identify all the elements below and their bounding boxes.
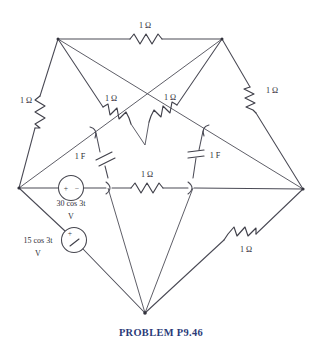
node-top-left xyxy=(57,38,60,41)
top-resistor-label: 1 Ω xyxy=(139,21,151,30)
wire-midright-upper xyxy=(177,39,222,105)
node-right xyxy=(301,187,304,190)
node-top-right xyxy=(221,38,224,41)
circuit-schematic-svg: 1 Ω 1 Ω 1 Ω 1 Ω + xyxy=(0,0,322,349)
wire-mid-rail-right xyxy=(194,188,303,189)
branch-left-resistor: 1 Ω xyxy=(19,39,58,188)
top-resistor-icon xyxy=(130,34,162,44)
right-cap-plate-a xyxy=(188,150,204,152)
source-30-circle xyxy=(59,176,84,201)
wire-left-cap-upper xyxy=(96,133,100,152)
source-15-plus: + xyxy=(68,229,72,238)
branch-right-resistor: 1 Ω xyxy=(222,39,303,189)
wire-left-upper xyxy=(40,39,58,96)
source-30-minus: − xyxy=(75,184,79,193)
wire-source15-upper xyxy=(19,188,65,231)
mid-left-resistor-icon xyxy=(103,104,131,124)
chord-midleft-continue xyxy=(131,124,145,145)
wire-right-lower xyxy=(256,113,303,189)
branch-mid-right-resistor: 1 Ω xyxy=(149,39,222,122)
left-capacitor-label: 1 F xyxy=(75,152,86,161)
mid-right-resistor-label: 1 Ω xyxy=(164,93,176,102)
left-cap-plate-b xyxy=(99,158,115,166)
source-30-unit-label: V xyxy=(68,212,74,221)
wire-right-cap-upper xyxy=(199,131,203,150)
branch-left-capacitor: 1 F xyxy=(75,133,115,178)
node-left xyxy=(17,186,20,189)
right-capacitor-label: 1 F xyxy=(210,151,221,160)
wire-bottom-right-upper xyxy=(256,189,303,234)
source-15-amplitude-label: 15 cos 3t xyxy=(24,236,54,245)
left-resistor-icon xyxy=(35,96,45,128)
node-bottom xyxy=(143,311,147,315)
source-30-amplitude-label: 30 cos 3t xyxy=(57,199,87,208)
center-resistor-label: 1 Ω xyxy=(141,170,153,179)
right-resistor-label: 1 Ω xyxy=(266,86,278,95)
wire-midleft-upper xyxy=(58,39,103,107)
right-resistor-icon xyxy=(244,87,256,113)
chord-topright-to-left xyxy=(19,39,222,188)
wire-left-cap-lower xyxy=(105,166,108,178)
branch-source-30: + − 30 cos 3t V xyxy=(19,176,106,222)
left-cap-plate-a xyxy=(96,152,112,160)
bottom-right-resistor-icon xyxy=(224,227,256,240)
circuit-figure: 1 Ω 1 Ω 1 Ω 1 Ω + xyxy=(0,0,322,349)
branch-right-capacitor: 1 F xyxy=(188,131,221,178)
wire-right-upper xyxy=(222,39,250,87)
source-30-plus: + xyxy=(64,184,68,193)
wire-bottom-right-lower xyxy=(145,240,224,313)
mid-left-resistor-label: 1 Ω xyxy=(105,94,117,103)
bottom-right-resistor-label: 1 Ω xyxy=(240,245,252,254)
left-resistor-label: 1 Ω xyxy=(20,96,32,105)
figure-caption: PROBLEM P9.46 xyxy=(0,327,322,338)
branch-mid-left-resistor: 1 Ω xyxy=(58,39,131,124)
wire-right-cap-lower xyxy=(193,158,196,178)
branch-top-resistor: 1 Ω xyxy=(58,21,222,44)
branch-center-resistor: 1 Ω xyxy=(112,170,188,193)
center-resistor-icon xyxy=(131,183,163,193)
mid-right-resistor-icon xyxy=(149,102,177,122)
leg-inner-bottom-right-to-bottom xyxy=(145,188,193,313)
source-15-unit-label: V xyxy=(35,249,41,258)
chord-midright-continue xyxy=(145,122,149,145)
chord-topleft-to-right xyxy=(58,39,303,189)
wire-left-lower xyxy=(19,128,35,188)
